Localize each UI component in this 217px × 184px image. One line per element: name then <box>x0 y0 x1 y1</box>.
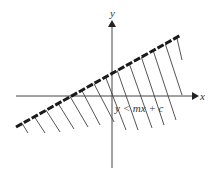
y-axis <box>108 20 116 168</box>
x-axis <box>16 92 199 100</box>
inequality-diagram: x y y < mx + c <box>0 0 217 184</box>
x-axis-label: x <box>199 90 205 102</box>
inequality-label: y < mx + c <box>114 102 164 114</box>
y-axis-label: y <box>109 7 115 19</box>
hatch-region <box>20 34 182 133</box>
